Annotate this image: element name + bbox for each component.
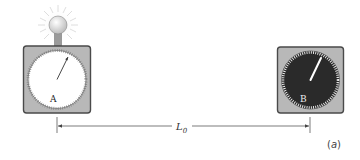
panel-label: (a) — [327, 139, 341, 150]
light-bulb-icon — [38, 5, 78, 46]
clock-a — [24, 46, 91, 113]
diagram-svg — [0, 0, 360, 160]
distance-symbol: L — [176, 121, 183, 132]
clock-a-label: A — [50, 94, 57, 104]
diagram: A B L0 (a) — [0, 0, 360, 160]
clock-b-label: B — [300, 94, 307, 104]
clock-b — [278, 47, 344, 113]
distance-label: L0 — [173, 121, 190, 135]
panel-letter: a — [331, 139, 337, 150]
distance-subscript: 0 — [183, 127, 187, 135]
